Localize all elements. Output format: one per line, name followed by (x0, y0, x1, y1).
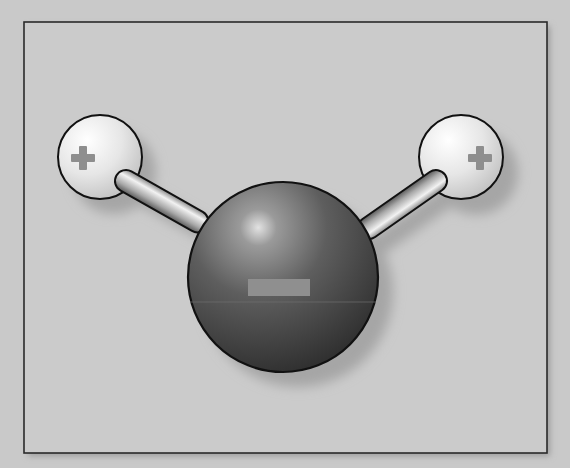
minus-charge-icon (248, 279, 310, 296)
water-molecule-diagram (0, 0, 570, 468)
oxygen-atom-center (188, 182, 378, 372)
diagram-canvas (0, 0, 570, 468)
